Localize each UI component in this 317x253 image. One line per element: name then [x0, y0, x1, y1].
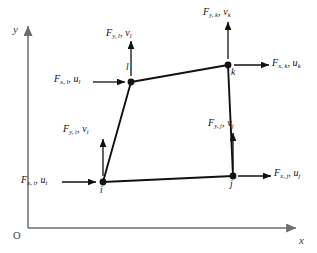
force-x-k-disp: u	[293, 57, 298, 68]
force-y-i-disp: v	[82, 123, 87, 134]
force-y-i-label: Fy, i, vi	[63, 124, 89, 134]
force-x-l-subscript: x, l	[60, 78, 68, 85]
force-x-i-label: Fx, i, ui	[21, 175, 47, 185]
force-x-l-disp: u	[73, 73, 78, 84]
force-x-k-label: Fx, k, uk	[272, 58, 301, 68]
force-x-l-disp-subscript: l	[79, 78, 81, 85]
force-x-j-label: Fx, j, uj	[274, 168, 300, 178]
force-x-j-disp-subscript: j	[299, 172, 301, 179]
force-y-i-subscript: y, i	[69, 128, 77, 135]
force-y-j-label: Fy, j, vj	[208, 118, 234, 128]
y-axis-label: y	[13, 24, 18, 35]
force-y-i-disp-subscript: i	[87, 128, 89, 135]
force-x-j-disp: u	[293, 167, 298, 178]
force-y-j-subscript: y, j	[214, 122, 222, 129]
x-axis-label: x	[299, 235, 304, 246]
force-x-i-subscript: x, i	[27, 179, 35, 186]
node-label-i: i	[100, 186, 103, 196]
force-y-k-disp-subscript: k	[228, 11, 231, 18]
force-y-k-subscript: y, k	[209, 11, 218, 18]
force-y-l-disp-subscript: l	[130, 32, 132, 39]
force-y-l-subscript: y, l	[112, 32, 120, 39]
force-x-j-subscript: x, j	[280, 172, 288, 179]
force-x-k-subscript: x, k	[278, 62, 287, 69]
force-y-j-disp: v	[227, 117, 232, 128]
node-marker-l	[128, 79, 135, 86]
force-x-i-disp-subscript: i	[46, 179, 48, 186]
force-y-j-disp-subscript: j	[232, 122, 234, 129]
node-label-k: k	[231, 68, 235, 78]
force-x-k-disp-subscript: k	[298, 62, 301, 69]
node-label-j: j	[230, 180, 233, 190]
origin-label: O	[13, 231, 21, 242]
force-x-l-label: Fx, l, ul	[54, 74, 80, 84]
force-y-k-label: Fy, k, vk	[203, 7, 231, 17]
force-y-l-label: Fy, l, vl	[106, 28, 132, 38]
force-y-l-disp: v	[125, 27, 130, 38]
node-label-l: l	[126, 63, 129, 73]
diagram-svg	[0, 0, 317, 253]
figure-canvas: y x O i j k l Fx, i, ui Fy, i, vi Fx, j,…	[0, 0, 317, 253]
force-x-i-disp: u	[40, 174, 45, 185]
